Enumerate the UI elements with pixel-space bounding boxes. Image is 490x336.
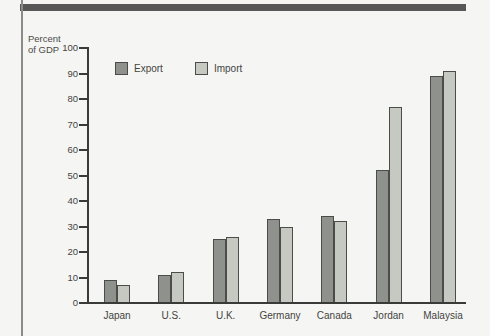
bar-export-uk [213, 239, 226, 303]
legend-item-export: Export [115, 62, 163, 75]
y-axis-line [87, 47, 89, 304]
legend-item-import: Import [195, 62, 242, 75]
y-tick-label-90: 90 [56, 68, 78, 79]
y-tick-label-60: 60 [56, 144, 78, 155]
bar-export-us [158, 275, 171, 303]
bar-export-germany [267, 219, 280, 303]
import-swatch-icon [195, 62, 208, 75]
legend-label-import: Import [214, 63, 242, 74]
bar-export-japan [104, 280, 117, 303]
y-tick-label-0: 0 [56, 297, 78, 308]
bar-import-uk [226, 237, 239, 303]
page-left-rule [21, 0, 23, 336]
y-tick-label-100: 100 [56, 42, 78, 53]
bar-export-canada [321, 216, 334, 303]
chart-legend: Export Import [115, 62, 266, 75]
bar-import-jordan [389, 107, 402, 303]
bar-import-canada [334, 221, 347, 303]
y-tick-label-80: 80 [56, 93, 78, 104]
y-tick-label-30: 30 [56, 221, 78, 232]
textbook-page: Percent of GDP Export Import 01020304050… [0, 0, 490, 336]
bar-import-germany [280, 227, 293, 304]
bar-export-malaysia [430, 76, 443, 303]
legend-label-export: Export [134, 63, 163, 74]
y-tick-label-10: 10 [56, 272, 78, 283]
x-axis-line [87, 302, 466, 304]
bar-import-japan [117, 285, 130, 303]
y-tick-label-20: 20 [56, 246, 78, 257]
export-swatch-icon [115, 62, 128, 75]
y-tick-label-40: 40 [56, 195, 78, 206]
y-tick-label-50: 50 [56, 170, 78, 181]
y-tick-label-70: 70 [56, 119, 78, 130]
bar-import-us [171, 272, 184, 303]
bar-export-jordan [376, 170, 389, 303]
bar-import-malaysia [443, 71, 456, 303]
category-label-malaysia: Malaysia [411, 310, 475, 321]
page-top-rule [20, 4, 466, 11]
